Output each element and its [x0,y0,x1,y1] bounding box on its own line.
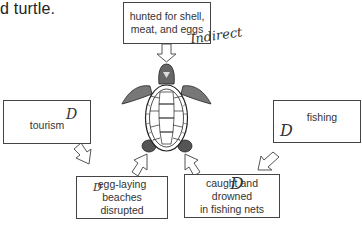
box-tourism-label: tourism [30,119,64,132]
arrow-fishing-to-caught [258,152,279,170]
box-egg-laying: egg-laying beaches disrupted [76,176,168,219]
handwritten-annotation-fishing: D [280,121,293,140]
arrow-top-to-turtle [157,44,176,62]
box-caught-line-2: in fishing nets [185,203,279,216]
box-egg-laying-line-1: egg-laying beaches [77,178,167,204]
box-tourism: tourism [3,100,91,144]
handwritten-annotation-egg-laying: D [93,181,102,194]
sea-turtle-icon [122,64,211,152]
arrow-caught-to-turtle [185,154,200,176]
handwritten-annotation-caught: D [230,173,244,193]
box-hunted-line-1: hunted for shell, [130,10,205,23]
arrow-tourism-to-egglaying [74,143,91,164]
box-egg-laying-line-2: disrupted [77,204,167,217]
box-fishing-label: fishing [307,111,337,124]
handwritten-annotation-tourism: D [66,106,77,122]
arrow-egglaying-to-turtle [132,154,147,176]
